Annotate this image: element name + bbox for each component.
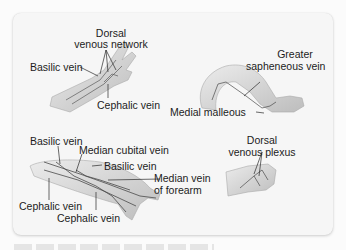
foot-illustration	[226, 152, 276, 196]
label-basilic-vein-top: Basilic vein	[30, 135, 83, 147]
label-dorsal-venous-network-2: venous network	[66, 38, 156, 50]
label-basilic-vein-mid: Basilic vein	[104, 160, 157, 172]
label-dorsal-venous-plexus-2: venous plexus	[222, 146, 302, 158]
label-greater-saphenous-2: sapheneous vein	[246, 60, 325, 72]
label-medial-malleolus: Medial malleous	[170, 106, 246, 118]
label-dorsal-venous-plexus-1: Dorsal	[237, 134, 287, 146]
label-cephalic-vein-left: Cephalic vein	[19, 200, 82, 212]
anatomy-illustrations	[0, 0, 346, 250]
label-cephalic-vein: Cephalic vein	[97, 99, 160, 111]
label-median-vein-forearm-1: Median vein	[154, 172, 211, 184]
figure-caption-cutoff	[14, 244, 214, 250]
label-greater-saphenous-1: Greater	[265, 48, 325, 60]
label-cephalic-vein-bottom: Cephalic vein	[57, 212, 120, 224]
label-median-vein-forearm-2: of forearm	[154, 184, 202, 196]
label-basilic-vein: Basilic vein	[30, 61, 83, 73]
label-median-cubital-vein: Median cubital vein	[79, 144, 169, 156]
